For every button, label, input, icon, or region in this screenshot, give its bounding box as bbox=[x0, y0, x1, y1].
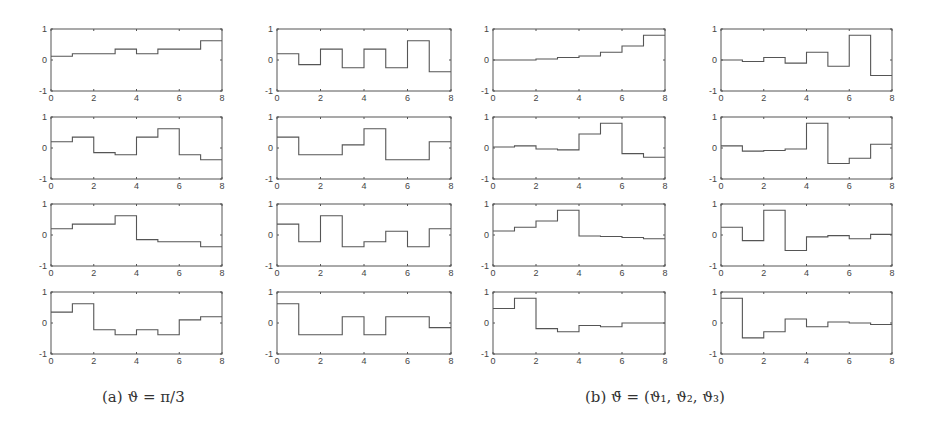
step-plot-r2c3: 02468-101 bbox=[481, 112, 668, 191]
svg-text:-1: -1 bbox=[265, 261, 273, 271]
caption-panel-a: (a) ϑ = π/3 bbox=[102, 388, 185, 406]
svg-text:4: 4 bbox=[576, 356, 581, 366]
figure-grid: 02468-10102468-10102468-10102468-1010246… bbox=[0, 0, 932, 424]
svg-text:-1: -1 bbox=[709, 261, 717, 271]
step-plot-r2c2: 02468-101 bbox=[265, 112, 454, 191]
svg-text:6: 6 bbox=[405, 356, 410, 366]
svg-text:-1: -1 bbox=[481, 261, 489, 271]
svg-text:-1: -1 bbox=[481, 349, 489, 359]
step-plot-r4c4: 02468-101 bbox=[709, 287, 895, 366]
svg-text:2: 2 bbox=[91, 268, 96, 278]
svg-text:6: 6 bbox=[405, 268, 410, 278]
step-plot-r3c1: 02468-101 bbox=[39, 199, 225, 278]
svg-text:-1: -1 bbox=[39, 174, 47, 184]
svg-text:-1: -1 bbox=[481, 86, 489, 96]
svg-text:8: 8 bbox=[219, 181, 224, 191]
svg-text:0: 0 bbox=[484, 318, 489, 328]
step-plot-r3c2: 02468-101 bbox=[265, 199, 454, 278]
svg-text:4: 4 bbox=[134, 93, 139, 103]
svg-text:-1: -1 bbox=[265, 174, 273, 184]
svg-text:6: 6 bbox=[177, 356, 182, 366]
svg-text:4: 4 bbox=[134, 181, 139, 191]
svg-text:4: 4 bbox=[576, 181, 581, 191]
svg-text:8: 8 bbox=[448, 268, 453, 278]
svg-text:1: 1 bbox=[484, 199, 489, 209]
caption-panel-b: (b) ϑ̄ = (ϑ₁, ϑ₂, ϑ₃) bbox=[585, 388, 725, 406]
svg-text:0: 0 bbox=[274, 268, 279, 278]
svg-text:0: 0 bbox=[712, 143, 717, 153]
svg-text:1: 1 bbox=[268, 112, 273, 122]
svg-text:1: 1 bbox=[484, 112, 489, 122]
svg-text:-1: -1 bbox=[481, 174, 489, 184]
svg-text:6: 6 bbox=[619, 268, 624, 278]
svg-text:0: 0 bbox=[490, 268, 495, 278]
svg-text:0: 0 bbox=[484, 230, 489, 240]
svg-text:2: 2 bbox=[533, 93, 538, 103]
svg-text:2: 2 bbox=[91, 181, 96, 191]
svg-text:6: 6 bbox=[177, 268, 182, 278]
svg-text:-1: -1 bbox=[709, 174, 717, 184]
svg-text:2: 2 bbox=[318, 268, 323, 278]
svg-text:6: 6 bbox=[619, 93, 624, 103]
svg-text:0: 0 bbox=[42, 230, 47, 240]
svg-text:8: 8 bbox=[448, 181, 453, 191]
svg-text:-1: -1 bbox=[709, 86, 717, 96]
svg-text:1: 1 bbox=[42, 24, 47, 34]
svg-text:4: 4 bbox=[361, 93, 366, 103]
svg-text:1: 1 bbox=[712, 24, 717, 34]
svg-text:8: 8 bbox=[662, 356, 667, 366]
svg-text:8: 8 bbox=[662, 93, 667, 103]
svg-text:8: 8 bbox=[448, 356, 453, 366]
svg-text:2: 2 bbox=[761, 356, 766, 366]
svg-text:2: 2 bbox=[318, 356, 323, 366]
svg-text:-1: -1 bbox=[265, 349, 273, 359]
svg-text:2: 2 bbox=[761, 93, 766, 103]
svg-text:8: 8 bbox=[662, 268, 667, 278]
svg-text:1: 1 bbox=[484, 287, 489, 297]
svg-text:-1: -1 bbox=[39, 86, 47, 96]
svg-text:0: 0 bbox=[718, 93, 723, 103]
svg-text:0: 0 bbox=[42, 318, 47, 328]
step-plot-r1c4: 02468-101 bbox=[709, 24, 895, 103]
svg-text:1: 1 bbox=[42, 287, 47, 297]
svg-text:6: 6 bbox=[847, 268, 852, 278]
svg-text:2: 2 bbox=[761, 268, 766, 278]
svg-text:8: 8 bbox=[662, 181, 667, 191]
svg-text:0: 0 bbox=[48, 181, 53, 191]
svg-text:6: 6 bbox=[619, 181, 624, 191]
svg-text:0: 0 bbox=[490, 356, 495, 366]
svg-text:0: 0 bbox=[268, 55, 273, 65]
step-plot-r4c1: 02468-101 bbox=[39, 287, 225, 366]
svg-text:6: 6 bbox=[177, 181, 182, 191]
svg-text:8: 8 bbox=[219, 268, 224, 278]
svg-text:-1: -1 bbox=[709, 349, 717, 359]
svg-text:4: 4 bbox=[361, 181, 366, 191]
svg-text:0: 0 bbox=[718, 181, 723, 191]
svg-text:0: 0 bbox=[274, 181, 279, 191]
svg-text:0: 0 bbox=[490, 181, 495, 191]
svg-text:1: 1 bbox=[712, 287, 717, 297]
svg-text:-1: -1 bbox=[265, 86, 273, 96]
svg-text:2: 2 bbox=[318, 93, 323, 103]
svg-text:6: 6 bbox=[847, 356, 852, 366]
svg-text:8: 8 bbox=[448, 93, 453, 103]
svg-text:4: 4 bbox=[361, 268, 366, 278]
svg-text:0: 0 bbox=[274, 93, 279, 103]
svg-text:2: 2 bbox=[91, 356, 96, 366]
svg-text:2: 2 bbox=[533, 181, 538, 191]
step-plot-r2c1: 02468-101 bbox=[39, 112, 225, 191]
svg-text:0: 0 bbox=[48, 93, 53, 103]
svg-text:4: 4 bbox=[804, 93, 809, 103]
svg-text:0: 0 bbox=[48, 268, 53, 278]
svg-text:8: 8 bbox=[219, 93, 224, 103]
svg-text:1: 1 bbox=[268, 199, 273, 209]
step-plot-r3c3: 02468-101 bbox=[481, 199, 668, 278]
svg-text:0: 0 bbox=[712, 230, 717, 240]
svg-text:2: 2 bbox=[91, 93, 96, 103]
svg-text:2: 2 bbox=[318, 181, 323, 191]
svg-text:8: 8 bbox=[889, 268, 894, 278]
svg-text:0: 0 bbox=[484, 55, 489, 65]
svg-text:0: 0 bbox=[718, 268, 723, 278]
svg-text:0: 0 bbox=[274, 356, 279, 366]
svg-text:0: 0 bbox=[42, 143, 47, 153]
